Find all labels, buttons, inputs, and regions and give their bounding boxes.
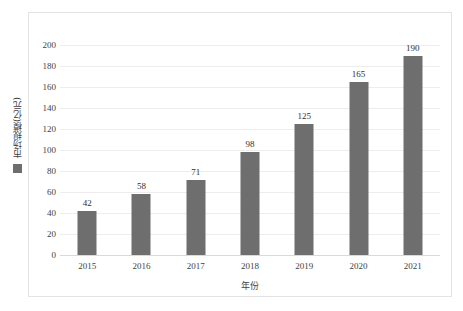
bar[interactable] (403, 56, 422, 256)
y-axis-title: 市场规模(亿元) (13, 97, 22, 158)
bar[interactable] (132, 194, 151, 255)
bar-value-label: 165 (352, 70, 366, 79)
y-axis-tick-labels: 200180160140120100806040200 (28, 45, 56, 255)
x-axis-title: 年份 (60, 281, 440, 291)
bar-group[interactable]: 71 (169, 45, 223, 255)
bar-group[interactable]: 165 (332, 45, 386, 255)
x-axis-tick-label: 2021 (386, 262, 440, 271)
x-axis-tick-label: 2018 (223, 262, 277, 271)
bar[interactable] (241, 152, 260, 255)
y-axis-legend-block: 市场规模(亿元) (6, 40, 28, 230)
legend-color-swatch-icon (13, 164, 22, 173)
bar-value-label: 98 (246, 140, 255, 149)
bar-group[interactable]: 42 (60, 45, 114, 255)
bar-value-label: 58 (137, 182, 146, 191)
y-axis-tick-label: 180 (30, 62, 56, 71)
bar[interactable] (78, 211, 97, 255)
x-axis-tick-labels: 2015201620172018201920202021 (60, 262, 440, 276)
bar[interactable] (186, 180, 205, 255)
y-axis-tick-label: 140 (30, 104, 56, 113)
x-axis-tick-label: 2015 (60, 262, 114, 271)
gridline (60, 255, 440, 256)
x-axis-tick-label: 2016 (114, 262, 168, 271)
y-axis-tick-label: 160 (30, 83, 56, 92)
y-axis-tick-label: 120 (30, 125, 56, 134)
bar-group[interactable]: 190 (386, 45, 440, 255)
bar-value-label: 125 (298, 112, 312, 121)
x-axis-tick-label: 2017 (169, 262, 223, 271)
y-axis-tick-label: 80 (30, 167, 56, 176)
bar-group[interactable]: 125 (277, 45, 331, 255)
y-axis-tick-label: 200 (30, 41, 56, 50)
y-axis-tick-label: 40 (30, 209, 56, 218)
bar-group[interactable]: 58 (114, 45, 168, 255)
bar-group[interactable]: 98 (223, 45, 277, 255)
y-axis-tick-label: 0 (30, 251, 56, 260)
bar-value-label: 42 (83, 199, 92, 208)
plot-area: 42587198125165190 (60, 45, 440, 255)
x-axis-tick-label: 2020 (332, 262, 386, 271)
x-axis-tick-label: 2019 (277, 262, 331, 271)
y-axis-tick-label: 60 (30, 188, 56, 197)
bar[interactable] (295, 124, 314, 255)
bar[interactable] (349, 82, 368, 255)
bar-series: 42587198125165190 (60, 45, 440, 255)
bar-value-label: 190 (406, 44, 420, 53)
y-axis-tick-label: 20 (30, 230, 56, 239)
bar-value-label: 71 (191, 168, 200, 177)
y-axis-tick-label: 100 (30, 146, 56, 155)
chart-figure: 市场规模(亿元) 200180160140120100806040200 425… (0, 0, 463, 311)
